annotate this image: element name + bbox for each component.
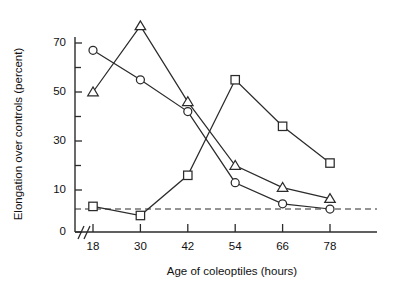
data-point-square: [326, 159, 334, 167]
x-axis-tick-labels: 183042546678: [87, 240, 337, 252]
data-point-circle: [279, 200, 287, 208]
series-polyline: [93, 26, 330, 199]
line-chart: 010305070 183042546678 Age of coleoptile…: [0, 0, 397, 283]
y-axis-minor-ticks: [75, 68, 81, 166]
y-tick-label: 70: [53, 36, 66, 48]
data-point-square: [278, 122, 286, 130]
data-point-square: [136, 211, 144, 219]
series-triangle: [88, 21, 336, 203]
x-tick-label: 18: [87, 240, 100, 252]
data-series-layer: [88, 21, 336, 220]
data-point-triangle: [88, 87, 99, 96]
data-point-circle: [326, 205, 334, 213]
x-tick-label: 78: [324, 240, 337, 252]
data-point-triangle: [277, 183, 288, 192]
x-axis-title: Age of coleoptiles (hours): [167, 265, 298, 277]
data-point-circle: [184, 108, 192, 116]
data-point-triangle: [230, 161, 241, 170]
chart-container: 010305070 183042546678 Age of coleoptile…: [0, 0, 397, 283]
data-point-circle: [89, 46, 97, 54]
data-point-square: [231, 76, 239, 84]
y-axis-tick-labels: 010305070: [53, 36, 66, 237]
y-axis-title: Elongation over controls (percent): [12, 48, 24, 221]
y-tick-label: 10: [53, 183, 66, 195]
series-circle: [89, 46, 334, 213]
series-polyline: [93, 50, 330, 209]
x-tick-label: 66: [276, 240, 289, 252]
y-axis-ticks: [75, 43, 82, 232]
y-tick-label: 50: [53, 85, 66, 97]
y-tick-label: 30: [53, 134, 66, 146]
data-point-triangle: [183, 97, 194, 106]
x-tick-label: 30: [134, 240, 147, 252]
x-tick-label: 42: [181, 240, 194, 252]
data-point-circle: [231, 179, 239, 187]
data-point-square: [184, 171, 192, 179]
data-point-square: [89, 202, 97, 210]
x-tick-label: 54: [229, 240, 242, 252]
data-point-triangle: [135, 21, 146, 30]
data-point-circle: [136, 76, 144, 84]
x-axis-ticks: [93, 224, 330, 232]
y-tick-label: 0: [60, 225, 66, 237]
